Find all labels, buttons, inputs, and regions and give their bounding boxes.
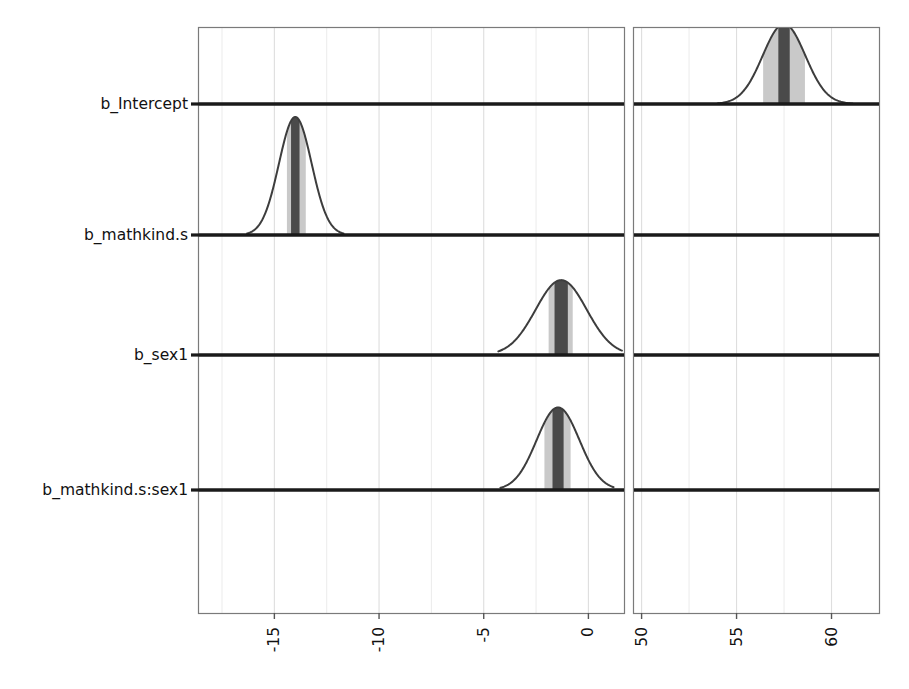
y-axis-label-b_mathkind.s:sex1: b_mathkind.s:sex1 <box>42 481 188 500</box>
median-band <box>291 117 299 235</box>
x-tick-label: 60 <box>823 627 841 647</box>
x-tick-label: -5 <box>475 627 493 642</box>
x-tick-label: -15 <box>265 627 283 652</box>
y-axis-label-b_mathkind.s: b_mathkind.s <box>84 226 188 245</box>
posterior-density-figure: -15-10-50505560 b_Interceptb_mathkind.sb… <box>0 0 909 689</box>
x-tick-label: 0 <box>579 627 597 637</box>
y-axis-label-b_Intercept: b_Intercept <box>100 95 188 114</box>
ridgeline-plot: -15-10-50505560 b_Interceptb_mathkind.sb… <box>0 0 909 689</box>
x-tick-label: 50 <box>633 627 651 647</box>
median-band <box>778 24 789 104</box>
y-axis-label-b_sex1: b_sex1 <box>134 346 188 365</box>
x-tick-label: 55 <box>728 627 746 647</box>
median-band <box>555 280 568 355</box>
x-tick-label: -10 <box>370 627 388 652</box>
median-band <box>553 407 564 490</box>
